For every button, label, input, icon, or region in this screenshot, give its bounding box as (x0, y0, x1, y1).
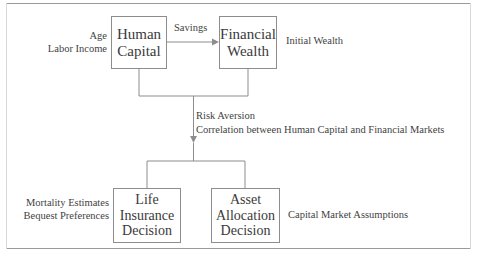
label-human-capital-inputs: Age Labor Income (6, 29, 107, 56)
node-human-capital-line-1: Human (117, 26, 161, 43)
label-mortality-estimates: Mortality Estimates (6, 196, 109, 209)
label-risk-aversion: Risk Aversion (196, 109, 444, 123)
node-life-insurance-line-2: Insurance (120, 208, 174, 224)
node-asset-allocation-line-1: Asset (230, 192, 261, 208)
node-financial-wealth-line-1: Financial (220, 26, 276, 43)
node-life-insurance-decision[interactable]: Life Insurance Decision (113, 188, 181, 243)
label-bequest-preferences: Bequest Preferences (6, 209, 109, 222)
node-life-insurance-line-3: Decision (122, 223, 172, 239)
merge-bracket (139, 69, 248, 96)
node-financial-wealth-line-2: Wealth (227, 43, 269, 60)
label-correlation: Correlation between Human Capital and Fi… (196, 123, 444, 137)
diagram-canvas: Human Capital Financial Wealth Life Insu… (0, 0, 481, 257)
node-human-capital[interactable]: Human Capital (111, 16, 167, 69)
label-risk-aversion-correlation: Risk Aversion Correlation between Human … (196, 109, 444, 136)
node-asset-allocation-line-3: Decision (221, 223, 271, 239)
node-asset-allocation-line-2: Allocation (216, 208, 275, 224)
label-capital-market-assumptions: Capital Market Assumptions (288, 208, 408, 221)
label-savings-text: Savings (174, 21, 207, 34)
label-life-insurance-inputs: Mortality Estimates Bequest Preferences (6, 196, 109, 223)
node-life-insurance-line-1: Life (135, 192, 158, 208)
node-human-capital-line-2: Capital (117, 43, 160, 60)
savings-arrowhead (212, 39, 219, 46)
label-capital-market-text: Capital Market Assumptions (288, 208, 408, 221)
split-bracket (147, 161, 245, 188)
label-age: Age (6, 29, 107, 42)
label-initial-wealth-text: Initial Wealth (286, 34, 343, 47)
label-initial-wealth: Initial Wealth (286, 34, 343, 47)
node-financial-wealth[interactable]: Financial Wealth (219, 16, 277, 69)
merge-down-arrowhead (190, 136, 197, 143)
label-savings: Savings (174, 21, 207, 34)
node-asset-allocation-decision[interactable]: Asset Allocation Decision (211, 188, 280, 243)
label-labor-income: Labor Income (6, 42, 107, 55)
